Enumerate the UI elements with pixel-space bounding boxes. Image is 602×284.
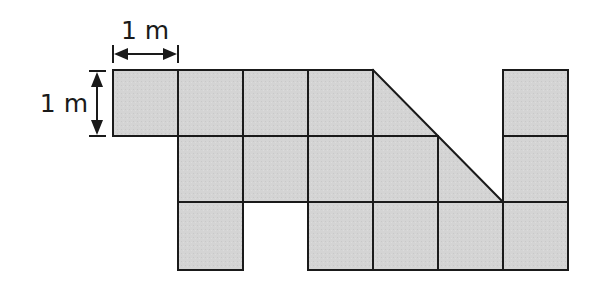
- grid-area-diagram: 1 m 1 m: [0, 0, 602, 284]
- horizontal-dimension-arrow: [113, 45, 178, 63]
- horizontal-unit-label: 1 m: [121, 16, 169, 45]
- shaded-region: [113, 70, 568, 270]
- empty-cell-gap: [244, 203, 307, 273]
- vertical-dimension-arrow: [89, 71, 106, 136]
- vertical-unit-label: 1 m: [40, 89, 88, 118]
